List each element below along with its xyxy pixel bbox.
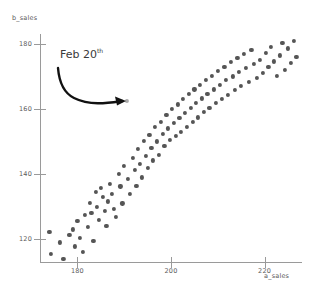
data-point: [75, 219, 79, 223]
data-point: [294, 55, 298, 59]
x-tick-label: 180: [57, 267, 97, 275]
data-point: [222, 64, 226, 68]
y-axis-title: b_sales: [12, 14, 37, 22]
data-point: [170, 107, 174, 111]
data-point: [61, 257, 65, 261]
data-point: [164, 113, 168, 117]
data-point: [289, 61, 293, 65]
data-point: [229, 60, 233, 64]
data-point: [132, 168, 136, 172]
data-point: [269, 45, 273, 49]
data-point: [138, 162, 142, 166]
data-point: [97, 218, 101, 222]
data-point: [122, 164, 126, 168]
y-tick-label: 160: [0, 105, 32, 113]
data-point: [202, 110, 206, 114]
data-point: [249, 48, 253, 52]
data-point: [263, 51, 267, 55]
data-point: [190, 120, 194, 124]
data-point: [144, 154, 148, 158]
data-point: [91, 238, 95, 242]
data-point: [233, 88, 237, 92]
data-point: [81, 250, 85, 254]
data-point: [252, 62, 256, 66]
data-point: [194, 101, 198, 105]
data-point: [126, 177, 130, 181]
data-point: [94, 190, 98, 194]
data-point: [114, 215, 118, 219]
data-point: [244, 66, 248, 70]
data-point: [99, 186, 103, 190]
data-point: [272, 59, 276, 63]
data-point: [187, 92, 191, 96]
data-point: [247, 80, 251, 84]
y-tick-mark: [34, 174, 46, 175]
data-point: [134, 184, 138, 188]
data-point: [275, 74, 279, 78]
data-point: [286, 46, 290, 50]
data-point: [174, 134, 178, 138]
data-point: [277, 53, 281, 57]
y-tick-mark: [34, 44, 46, 45]
data-point: [160, 132, 164, 136]
data-point: [168, 138, 172, 142]
data-point: [118, 184, 122, 188]
annotation-arrow-icon: [42, 66, 142, 114]
y-tick-label: 120: [0, 235, 32, 243]
data-point: [226, 92, 230, 96]
y-tick-label: 180: [0, 40, 32, 48]
data-point: [231, 74, 235, 78]
data-point: [200, 96, 204, 100]
data-point: [120, 201, 124, 205]
scatter-plot: b_sales a_sales 120140160180 180200220 F…: [0, 0, 310, 293]
data-point: [189, 106, 193, 110]
data-point: [147, 133, 151, 137]
data-point: [83, 213, 87, 217]
y-tick-label: 140: [0, 170, 32, 178]
data-point: [108, 182, 112, 186]
data-point: [179, 130, 183, 134]
data-point: [104, 223, 108, 227]
data-point: [258, 58, 262, 62]
data-point: [242, 52, 246, 56]
data-point: [175, 102, 179, 106]
data-point: [224, 78, 228, 82]
annotation-label: Feb 20th: [60, 47, 103, 61]
data-point: [110, 192, 114, 196]
annotation-superscript: th: [97, 47, 103, 54]
x-tick-label: 200: [151, 267, 191, 275]
data-point: [140, 175, 144, 179]
y-tick-mark: [34, 239, 46, 240]
data-point: [205, 92, 209, 96]
data-point: [136, 147, 140, 151]
data-point: [146, 166, 150, 170]
data-point: [266, 65, 270, 69]
data-point: [153, 125, 157, 129]
data-point: [95, 205, 99, 209]
data-point: [117, 172, 121, 176]
data-point: [71, 227, 75, 231]
data-point: [67, 233, 71, 237]
data-point: [112, 207, 116, 211]
data-point: [212, 87, 216, 91]
data-point: [261, 71, 265, 75]
data-point: [78, 236, 82, 240]
data-point: [207, 106, 211, 110]
data-point: [181, 97, 185, 101]
data-point: [283, 68, 287, 72]
data-point: [239, 84, 243, 88]
data-point: [177, 116, 181, 120]
data-point: [255, 76, 259, 80]
data-point: [86, 225, 90, 229]
data-point: [47, 230, 51, 234]
data-point: [237, 70, 241, 74]
data-point: [131, 156, 135, 160]
data-point: [218, 83, 222, 87]
data-point: [198, 83, 202, 87]
data-point: [185, 124, 189, 128]
data-point: [49, 252, 53, 256]
data-point: [106, 199, 110, 203]
x-tick-label: 220: [245, 267, 285, 275]
data-point: [162, 144, 166, 148]
data-point: [89, 211, 93, 215]
